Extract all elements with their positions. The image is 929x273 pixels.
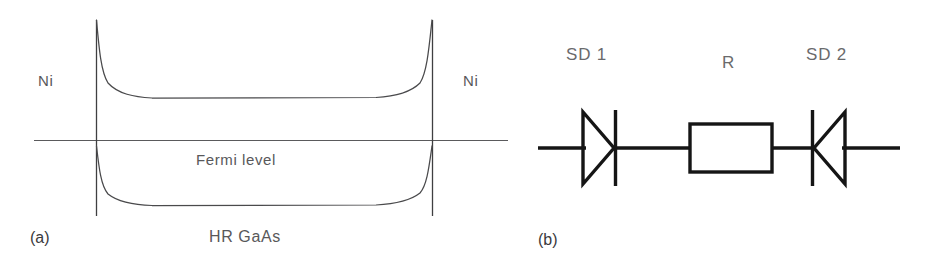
sd1-anode-triangle — [583, 112, 614, 184]
panel-b-tag: (b) — [538, 232, 558, 248]
sd2-label: SD 2 — [806, 46, 847, 63]
resistor-box — [690, 124, 772, 172]
schottky-diode-1 — [583, 110, 616, 186]
sd2-anode-triangle — [814, 112, 845, 184]
figure-root: Ni Ni Fermi level HR GaAs (a) SD 1 — [0, 0, 929, 273]
sd1-label: SD 1 — [566, 46, 607, 63]
resistor-label: R — [722, 54, 735, 71]
schottky-diode-2 — [813, 110, 846, 186]
panel-b-circuit — [0, 0, 929, 273]
